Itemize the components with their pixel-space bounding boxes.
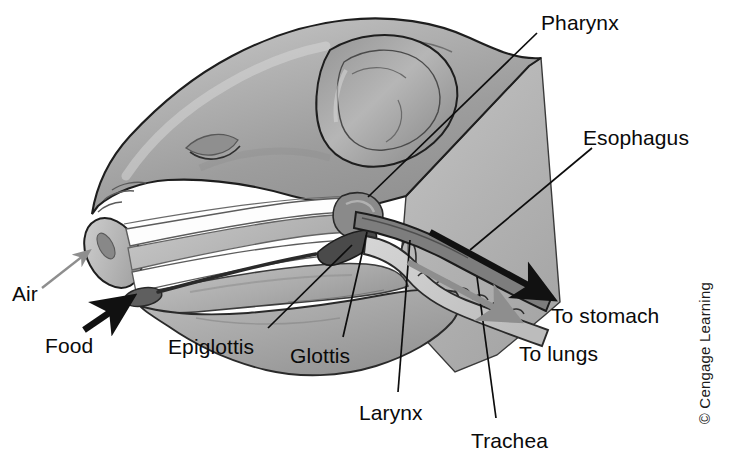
label-glottis: Glottis: [290, 345, 350, 366]
label-air: Air: [12, 283, 38, 304]
label-to-stomach: To stomach: [551, 305, 659, 326]
label-pharynx: Pharynx: [541, 12, 619, 33]
anatomy-figure: Pharynx Esophagus Air Food Epiglottis Gl…: [0, 0, 734, 473]
food-inflow-arrow: [84, 300, 128, 330]
copyright-credit: © Cengage Learning: [696, 282, 713, 424]
label-to-lungs: To lungs: [519, 343, 598, 364]
label-epiglottis: Epiglottis: [168, 336, 254, 357]
label-food: Food: [45, 335, 93, 356]
label-esophagus: Esophagus: [583, 127, 689, 148]
air-inflow-arrow: [42, 252, 88, 288]
label-trachea: Trachea: [471, 430, 548, 451]
label-larynx: Larynx: [359, 402, 423, 423]
